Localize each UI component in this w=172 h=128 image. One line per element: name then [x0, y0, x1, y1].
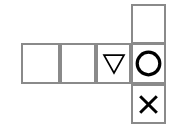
grid-cell-mid-3-content	[98, 45, 129, 82]
grid-cell-mid-2[interactable]: empty	[60, 43, 96, 84]
grid-cell-bottom-right-content	[133, 86, 164, 122]
grid-cell-mid-4[interactable]: circle outline	[131, 43, 166, 84]
grid-cell-mid-4-content	[133, 45, 164, 82]
grid-cell-mid-2-label: empty	[62, 45, 63, 46]
circle-icon	[135, 50, 162, 77]
grid-cell-mid-1[interactable]: empty	[21, 43, 60, 84]
grid-cell-mid-1-label: empty	[23, 45, 24, 46]
triangle-down-icon	[102, 53, 126, 75]
grid-cell-mid-3[interactable]: downward pointing triangle outline	[96, 43, 131, 84]
grid-cell-bottom-right[interactable]: X cross mark	[131, 84, 166, 124]
grid-cell-top-right-label: empty	[133, 6, 134, 7]
figure-title: Shape Grid Puzzle	[0, 0, 1, 1]
x-cross-icon	[138, 94, 159, 115]
shape-grid-figure: Shape Grid Puzzle empty empty empty down…	[0, 0, 172, 128]
grid-cell-top-right[interactable]: empty	[131, 4, 166, 44]
